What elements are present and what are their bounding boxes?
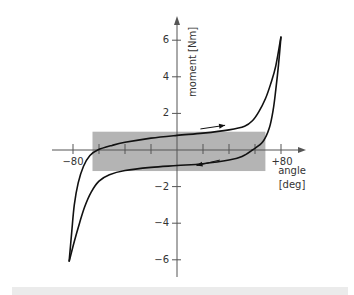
- y-tick-label: 4: [163, 71, 169, 82]
- y-tick-label: 2: [163, 107, 169, 118]
- x-tick-label: −80: [62, 156, 83, 167]
- hysteresis-chart: −80+80642−2−4−6moment [Nm]angle[deg]: [0, 0, 354, 295]
- y-tick-label: 6: [163, 34, 169, 45]
- x-axis-title-line1: angle: [278, 165, 306, 176]
- y-axis-arrow-icon: [174, 16, 180, 25]
- x-axis-title-line2: [deg]: [279, 179, 306, 190]
- y-tick-label: −2: [154, 181, 169, 192]
- y-tick-label: −6: [154, 254, 169, 265]
- arrow-right-icon: [219, 124, 225, 129]
- y-axis-title: moment [Nm]: [187, 27, 198, 97]
- footer-band: [12, 287, 348, 295]
- y-tick-label: −4: [154, 217, 169, 228]
- x-axis-arrow-icon: [298, 147, 306, 153]
